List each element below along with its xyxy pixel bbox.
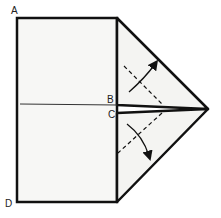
label-d: D [5,198,12,209]
fold-diagram: A B C D [0,0,221,218]
lower-flap [117,109,208,202]
paper-rectangle [17,18,117,202]
label-b: B [107,94,114,105]
label-a: A [11,5,18,16]
label-c: C [108,109,115,120]
upper-flap [117,18,208,109]
